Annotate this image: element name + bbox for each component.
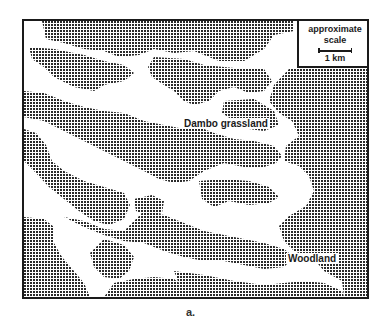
figure-caption: a. (186, 306, 195, 318)
label-woodland: Woodland (286, 253, 338, 264)
legend-title: approximate (299, 24, 369, 35)
map-figure: approximate scale 1 km Dambo grassland W… (0, 0, 388, 329)
scale-bar (318, 48, 352, 53)
label-dambo-grassland: Dambo grassland (182, 118, 270, 129)
scale-legend: approximate scale 1 km (297, 19, 369, 68)
map-frame: approximate scale 1 km Dambo grassland W… (22, 19, 369, 299)
scale-label: 1 km (299, 53, 369, 64)
legend-subtitle: scale (299, 35, 369, 46)
